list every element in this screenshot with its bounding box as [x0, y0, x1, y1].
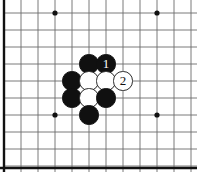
- black-stone-right-lower: [96, 88, 115, 107]
- white-stone-move-2-label: 2: [120, 74, 127, 87]
- stone-layer: 12: [0, 0, 197, 172]
- black-stone-bottom: [79, 105, 98, 124]
- white-stone-move-2: 2: [113, 71, 132, 90]
- go-board-diagram: 12: [0, 0, 197, 172]
- black-stone-move-1-label: 1: [103, 57, 110, 70]
